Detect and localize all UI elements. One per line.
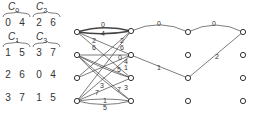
- node-mid-1: [128, 52, 133, 57]
- svg-text:1: 1: [103, 97, 107, 104]
- svg-text:0: 0: [212, 20, 216, 27]
- node-left-2: [74, 75, 79, 80]
- node-col4-0: [240, 29, 245, 34]
- svg-text:5: 5: [103, 104, 107, 111]
- svg-text:5: 5: [117, 66, 121, 73]
- svg-text:2: 2: [120, 37, 124, 44]
- node-col4-1: [240, 52, 245, 57]
- svg-text:7: 7: [117, 86, 121, 93]
- node-col3-2: [185, 75, 190, 80]
- svg-text:1: 1: [124, 64, 128, 71]
- node-mid-3: [128, 98, 133, 103]
- svg-text:3: 3: [124, 84, 128, 91]
- node-mid-0: [128, 28, 133, 33]
- node-left-1: [74, 52, 79, 57]
- node-col3-0: [185, 29, 190, 34]
- svg-text:6: 6: [120, 44, 124, 51]
- node-left-3: [74, 98, 79, 103]
- node-col3-3: [185, 98, 190, 103]
- node-col4-3: [240, 98, 245, 103]
- trellis-graph: 0 4 2 6 2 6 0 4 1 5 3 7 7 3 1 5 0 0 1 2: [0, 0, 256, 117]
- svg-text:2: 2: [215, 53, 219, 60]
- svg-text:0: 0: [101, 21, 105, 28]
- svg-text:7: 7: [95, 89, 99, 96]
- svg-text:0: 0: [118, 54, 122, 61]
- node-col4-2: [240, 75, 245, 80]
- svg-text:1: 1: [157, 64, 161, 71]
- node-col3-1: [185, 52, 190, 57]
- node-mid-2: [128, 75, 133, 80]
- svg-text:2: 2: [92, 37, 96, 44]
- svg-text:6: 6: [92, 44, 96, 51]
- node-left-0: [74, 29, 79, 34]
- svg-text:4: 4: [101, 30, 105, 37]
- svg-text:3: 3: [100, 82, 104, 89]
- path-edge-labels: 0 0 1 2: [157, 20, 219, 71]
- svg-text:0: 0: [157, 20, 161, 27]
